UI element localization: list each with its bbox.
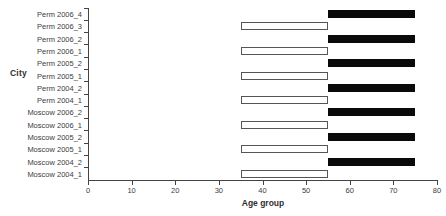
chart-row: Perm 2006_3: [88, 20, 437, 32]
chart-row: Perm 2004_1: [88, 94, 437, 106]
y-axis-tick-label: Perm 2006_2: [37, 34, 82, 43]
bar-filled: [328, 10, 415, 18]
y-axis-tick: [84, 167, 88, 168]
x-axis-tick: [393, 181, 394, 185]
y-axis-tick-label: Perm 2005_1: [37, 71, 82, 80]
y-axis-tick-label: Moscow 2004_1: [27, 169, 82, 178]
plot-area: Perm 2006_4Perm 2006_3Perm 2006_2Perm 20…: [88, 8, 437, 180]
y-axis-tick-label: Moscow 2005_2: [27, 132, 82, 141]
x-axis-tick-label: 60: [346, 186, 354, 195]
bar-hollow: [241, 47, 328, 55]
chart-row: Moscow 2005_1: [88, 143, 437, 155]
x-axis-tick: [437, 181, 438, 185]
x-axis-tick: [88, 181, 89, 185]
x-axis-tick-label: 80: [433, 186, 441, 195]
chart-row: Perm 2005_1: [88, 69, 437, 81]
x-axis-title: Age group: [88, 198, 438, 208]
x-axis-tick-label: 0: [86, 186, 90, 195]
y-axis-tick-label: Moscow 2004_2: [27, 157, 82, 166]
y-axis-tick-label: Perm 2005_2: [37, 59, 82, 68]
y-axis-tick-label: Moscow 2006_1: [27, 120, 82, 129]
chart-row: Moscow 2005_2: [88, 131, 437, 143]
x-axis-tick-label: 20: [171, 186, 179, 195]
age-group-range-chart: City Perm 2006_4Perm 2006_3Perm 2006_2Pe…: [0, 0, 446, 216]
chart-row: Perm 2004_2: [88, 82, 437, 94]
chart-row: Moscow 2004_2: [88, 155, 437, 167]
x-axis-tick-label: 40: [258, 186, 266, 195]
chart-row: Perm 2006_1: [88, 45, 437, 57]
x-axis-tick: [306, 181, 307, 185]
y-axis-tick-label: Perm 2006_1: [37, 46, 82, 55]
y-axis-tick-label: Moscow 2006_2: [27, 108, 82, 117]
y-axis-tick: [84, 118, 88, 119]
y-axis-tick: [84, 81, 88, 82]
chart-row: Perm 2006_4: [88, 8, 437, 20]
x-axis-tick: [132, 181, 133, 185]
bar-hollow: [241, 72, 328, 80]
bar-filled: [328, 59, 415, 67]
x-axis-tick-label: 70: [389, 186, 397, 195]
bar-filled: [328, 35, 415, 43]
x-axis-tick: [175, 181, 176, 185]
x-axis-tick: [219, 181, 220, 185]
y-axis-tick: [84, 106, 88, 107]
y-axis-tick-label: Moscow 2005_1: [27, 145, 82, 154]
chart-row: Perm 2005_2: [88, 57, 437, 69]
y-axis-tick-label: Perm 2004_2: [37, 83, 82, 92]
y-axis-tick-label: Perm 2006_3: [37, 22, 82, 31]
x-axis-tick: [350, 181, 351, 185]
y-axis-tick: [84, 69, 88, 70]
bar-hollow: [241, 96, 328, 104]
bar-hollow: [241, 22, 328, 30]
y-axis-tick-label: Perm 2006_4: [37, 10, 82, 19]
y-axis-tick: [84, 94, 88, 95]
chart-row: Moscow 2006_1: [88, 119, 437, 131]
chart-row: Perm 2006_2: [88, 33, 437, 45]
y-axis-tick: [84, 130, 88, 131]
y-axis-tick: [84, 57, 88, 58]
y-axis-tick: [84, 155, 88, 156]
y-axis-tick-label: Perm 2004_1: [37, 96, 82, 105]
bar-filled: [328, 158, 415, 166]
bar-hollow: [241, 121, 328, 129]
x-axis-tick-label: 10: [127, 186, 135, 195]
bar-hollow: [241, 145, 328, 153]
y-axis-tick: [84, 143, 88, 144]
y-axis-tick: [84, 8, 88, 9]
y-axis-tick: [84, 44, 88, 45]
bar-filled: [328, 133, 415, 141]
y-axis-tick: [84, 20, 88, 21]
chart-row: Moscow 2004_1: [88, 168, 437, 180]
x-axis-tick-label: 50: [302, 186, 310, 195]
x-axis-tick-label: 30: [215, 186, 223, 195]
bar-filled: [328, 108, 415, 116]
bar-filled: [328, 84, 415, 92]
chart-row: Moscow 2006_2: [88, 106, 437, 118]
x-axis-tick: [263, 181, 264, 185]
bar-hollow: [241, 170, 328, 178]
y-axis-tick: [84, 32, 88, 33]
